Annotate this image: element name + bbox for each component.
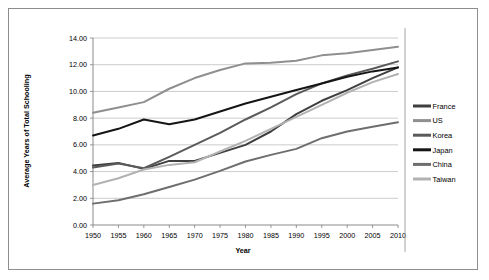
x-tick-label: 1985 — [263, 231, 279, 240]
y-tick-label: 8.00 — [73, 114, 87, 123]
legend-label-france[interactable]: France — [433, 102, 456, 111]
y-tick-label: 10.00 — [69, 87, 87, 96]
y-tick-label: 14.00 — [69, 34, 87, 43]
legend-label-china[interactable]: China — [433, 160, 453, 169]
y-axis-title: Average Years of Total Schooling — [22, 74, 31, 187]
x-tick-label: 1960 — [136, 231, 152, 240]
x-tick-label: 1950 — [85, 231, 101, 240]
series-line-japan — [93, 67, 398, 135]
legend-label-us[interactable]: US — [433, 116, 443, 125]
x-tick-labels: 1950195519601965197019751980198519901995… — [85, 231, 406, 240]
x-tick-label: 1970 — [187, 231, 203, 240]
legend-label-korea[interactable]: Korea — [433, 131, 454, 140]
x-tick-label: 1980 — [238, 231, 254, 240]
x-tick-label: 1995 — [314, 231, 330, 240]
x-tick-label: 1990 — [288, 231, 304, 240]
chart-figure: 0.002.004.006.008.0010.0012.0014.00 1950… — [0, 0, 489, 280]
legend-label-taiwan[interactable]: Taiwan — [433, 175, 456, 184]
x-tick-label: 1965 — [161, 231, 177, 240]
x-tick-label: 2005 — [365, 231, 381, 240]
line-chart: 0.002.004.006.008.0010.0012.0014.00 1950… — [0, 0, 489, 280]
y-tick-label: 6.00 — [73, 140, 87, 149]
y-tick-label: 4.00 — [73, 167, 87, 176]
y-tick-label: 2.00 — [73, 194, 87, 203]
gridlines-group — [93, 38, 398, 198]
x-tick-label: 2010 — [390, 231, 406, 240]
legend-label-japan[interactable]: Japan — [433, 146, 453, 155]
y-tick-labels: 0.002.004.006.008.0010.0012.0014.00 — [69, 34, 87, 230]
series-line-korea — [93, 61, 398, 168]
legend: FranceUSKoreaJapanChinaTaiwan — [405, 28, 456, 252]
x-tick-label: 1955 — [110, 231, 126, 240]
x-axis-title: Year — [235, 246, 250, 255]
y-tick-label: 12.00 — [69, 60, 87, 69]
series-line-china — [93, 122, 398, 203]
series-lines-group — [93, 47, 398, 204]
x-tick-label: 1975 — [212, 231, 228, 240]
y-tick-label: 0.00 — [73, 221, 87, 230]
x-tick-label: 2000 — [339, 231, 355, 240]
